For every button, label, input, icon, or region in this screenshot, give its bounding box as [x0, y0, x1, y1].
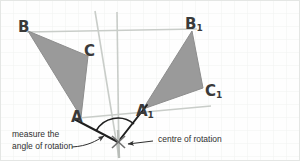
vertex-label-a1: A1	[136, 104, 154, 119]
vertex-label-a1-main: A	[136, 102, 148, 120]
diagram-canvas: B C A B1 C1 A1 measure the angle of rota…	[0, 0, 300, 161]
vertex-label-c1: C1	[205, 84, 222, 99]
annotation-centre-of-rotation: centre of rotation	[158, 134, 222, 145]
annotation-measure-line2: angle of rotation	[12, 141, 73, 152]
vertex-label-c1-main: C	[205, 82, 216, 100]
annotation-measure-line1: measure the	[12, 129, 59, 140]
vertex-label-b1-sub: 1	[196, 23, 202, 33]
centre-vertical-tail	[118, 130, 119, 158]
vertex-label-b1: B1	[185, 17, 203, 32]
vertex-label-b: B	[18, 20, 29, 35]
vertex-label-a1-sub: 1	[148, 110, 154, 120]
vertex-label-b1-main: B	[185, 15, 196, 33]
vertex-label-c1-sub: 1	[216, 90, 222, 100]
vertex-label-a: A	[71, 110, 83, 125]
vertex-label-c: C	[84, 44, 95, 59]
